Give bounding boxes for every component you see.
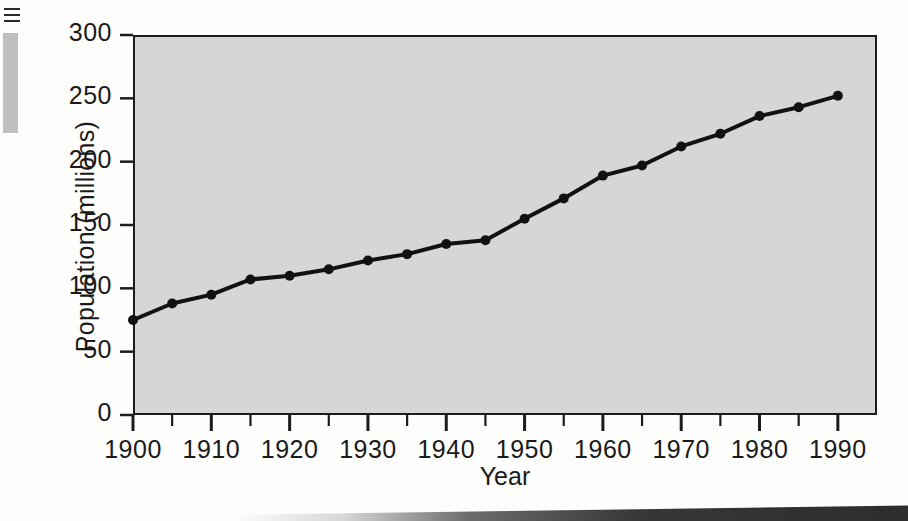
data-point-marker (285, 271, 295, 281)
data-point-marker (245, 274, 255, 284)
data-point-marker (637, 160, 647, 170)
chart-svg-layer (0, 0, 908, 500)
data-point-marker (676, 141, 686, 151)
data-point-marker (363, 255, 373, 265)
scanned-page: Population (millions) Year 0501001502002… (0, 0, 908, 521)
data-point-marker (715, 129, 725, 139)
x-tick-marks (133, 415, 838, 431)
data-point-marker (520, 214, 530, 224)
data-point-marker (128, 315, 138, 325)
data-point-marker (598, 171, 608, 181)
y-tick-marks (120, 35, 133, 415)
data-point-marker (755, 111, 765, 121)
data-point-marker (559, 193, 569, 203)
data-point-marker (441, 239, 451, 249)
population-data-line (133, 96, 838, 320)
data-point-marker (833, 91, 843, 101)
data-point-marker (402, 249, 412, 259)
population-line-chart: Population (millions) Year 0501001502002… (0, 0, 908, 500)
data-point-marker (206, 290, 216, 300)
data-point-marker (167, 299, 177, 309)
bottom-scan-shadow (0, 499, 908, 521)
data-point-marker (794, 102, 804, 112)
data-point-marker (324, 264, 334, 274)
data-point-marker (480, 235, 490, 245)
